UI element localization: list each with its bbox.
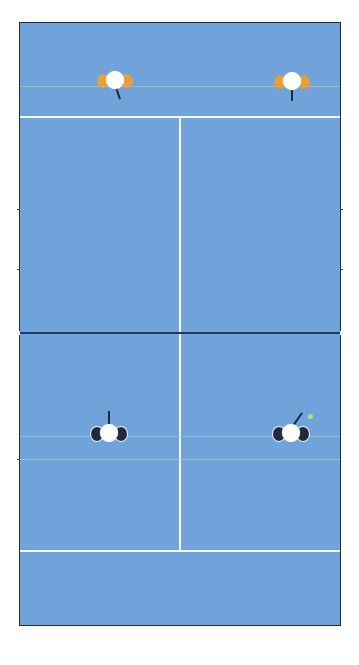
player-head-icon — [106, 71, 124, 89]
player-head-icon — [282, 424, 300, 442]
player-bottom-left[interactable] — [89, 415, 129, 455]
tennis-court[interactable] — [19, 22, 341, 626]
edge-tick — [17, 209, 20, 210]
net-post-right — [340, 331, 343, 335]
edge-tick — [17, 269, 20, 270]
game-stage — [0, 0, 359, 665]
edge-tick — [340, 269, 343, 270]
player-top-left[interactable] — [95, 62, 135, 102]
bottom-guide-line-b — [20, 459, 340, 460]
tennis-ball-icon — [308, 414, 313, 419]
center-service-line — [179, 116, 181, 552]
player-head-icon — [100, 424, 118, 442]
player-top-right[interactable] — [272, 63, 312, 103]
net-post-left — [17, 331, 20, 335]
bottom-service-line — [20, 550, 340, 552]
net — [18, 332, 342, 334]
edge-tick — [340, 209, 343, 210]
edge-tick — [17, 459, 20, 460]
player-head-icon — [283, 72, 301, 90]
player-bottom-right[interactable] — [271, 415, 311, 455]
